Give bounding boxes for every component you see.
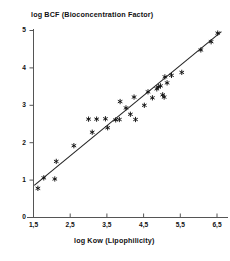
data-point-marker <box>150 96 154 101</box>
data-point-marker <box>118 99 122 104</box>
y-tick-label: 5 <box>17 26 26 33</box>
data-point-marker <box>72 143 76 148</box>
data-point-marker <box>142 103 146 108</box>
axes <box>27 29 228 218</box>
x-axis-ticks <box>34 214 218 218</box>
x-tick-label: 1,5 <box>26 221 42 228</box>
y-tick-label: 4 <box>17 64 26 71</box>
data-point-marker <box>36 186 40 191</box>
y-axis-ticks <box>30 31 34 218</box>
x-axis-title: log Kow (Lipophilicity) <box>74 236 155 245</box>
data-point-marker <box>134 117 138 122</box>
y-tick-label: 2 <box>17 139 26 146</box>
y-tick-label: 3 <box>17 101 26 108</box>
data-point-marker <box>95 117 99 122</box>
data-point-marker <box>128 112 132 117</box>
data-point-marker <box>90 130 94 135</box>
data-point-marker <box>54 159 58 164</box>
x-tick-label: 3,5 <box>99 221 115 228</box>
data-point-marker <box>132 95 136 100</box>
data-points <box>36 31 220 191</box>
bcf-kow-scatter-figure: log BCF (Bioconcentration Factor) 012345… <box>0 0 230 261</box>
data-point-marker <box>165 81 169 86</box>
data-point-marker <box>180 70 184 75</box>
y-tick-label: 1 <box>17 176 26 183</box>
data-point-marker <box>103 117 107 122</box>
data-point-marker <box>53 177 57 182</box>
x-tick-label: 5,5 <box>172 221 188 228</box>
x-tick-label: 6,5 <box>209 221 225 228</box>
y-tick-label: 0 <box>17 213 26 220</box>
x-tick-label: 4,5 <box>136 221 152 228</box>
x-tick-label: 2,5 <box>62 221 78 228</box>
data-point-marker <box>87 117 91 122</box>
